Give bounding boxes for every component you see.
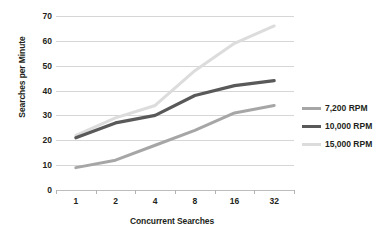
legend-label: 10,000 RPM [325, 121, 372, 131]
y-tick-label: 50 [26, 62, 52, 70]
x-tick-label: 2 [96, 196, 136, 206]
y-tick-label: 60 [26, 37, 52, 45]
y-tick-label: 20 [26, 136, 52, 144]
legend-swatch-icon [302, 125, 321, 128]
y-tick-label: 30 [26, 111, 52, 119]
x-tick-mark [215, 190, 216, 194]
series-lines [56, 16, 294, 190]
legend-label: 7,200 RPM [325, 103, 368, 113]
plot-area [56, 16, 294, 190]
x-axis-title: Concurrent Searches [46, 216, 298, 226]
legend-item: 7,200 RPM [302, 99, 388, 117]
legend-item: 10,000 RPM [302, 117, 388, 135]
y-tick-label: 70 [26, 12, 52, 20]
x-tick-label: 4 [135, 196, 175, 206]
legend-swatch-icon [302, 143, 321, 146]
y-tick-label: 40 [26, 87, 52, 95]
legend-item: 15,000 RPM [302, 135, 388, 153]
legend-label: 15,000 RPM [325, 139, 372, 149]
line-chart: Searches per Minute 010203040506070 1248… [0, 0, 388, 242]
legend: 7,200 RPM10,000 RPM15,000 RPM [302, 99, 388, 153]
x-tick-mark [254, 190, 255, 194]
x-tick-mark [135, 190, 136, 194]
series-line [76, 105, 274, 167]
legend-swatch-icon [302, 107, 321, 110]
x-tick-mark [175, 190, 176, 194]
x-tick-mark [56, 190, 57, 194]
x-tick-mark [96, 190, 97, 194]
x-tick-label: 32 [254, 196, 294, 206]
y-axis-tick-labels: 010203040506070 [12, 0, 52, 242]
series-line [76, 26, 274, 135]
x-tick-label: 1 [56, 196, 96, 206]
x-tick-label: 8 [175, 196, 215, 206]
y-tick-label: 0 [26, 186, 52, 194]
y-tick-label: 10 [26, 161, 52, 169]
x-tick-label: 16 [215, 196, 255, 206]
x-tick-mark [294, 190, 295, 194]
